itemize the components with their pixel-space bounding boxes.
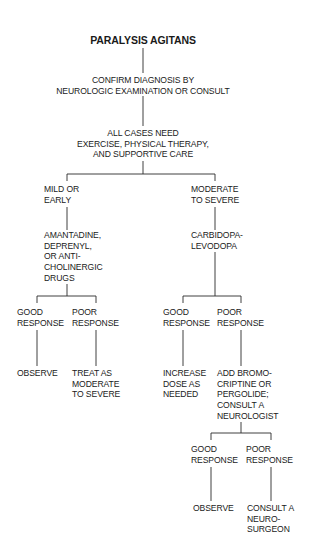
node-moderate-severe: MODERATE TO SEVERE bbox=[191, 184, 239, 205]
node-text: NEURO- bbox=[247, 514, 294, 525]
title-paralysis-agitans: PARALYSIS AGITANS bbox=[90, 35, 196, 46]
node-increase-dose: INCREASE DOSE AS NEEDED bbox=[163, 368, 206, 400]
node-text: GOOD bbox=[191, 444, 238, 455]
node-mild-good-response: GOOD RESPONSE bbox=[17, 307, 64, 328]
node-text: MODERATE bbox=[191, 184, 239, 195]
node-all-cases: ALL CASES NEED EXERCISE, PHYSICAL THERAP… bbox=[77, 128, 209, 160]
node-text: POOR bbox=[72, 307, 119, 318]
node-text: SURGEON bbox=[247, 524, 294, 535]
node-text: POOR bbox=[246, 444, 293, 455]
node-text: PERGOLIDE; bbox=[217, 389, 278, 400]
node-text: RESPONSE bbox=[191, 455, 238, 466]
node-text: RESPONSE bbox=[246, 455, 293, 466]
node-text: TO SEVERE bbox=[191, 195, 239, 206]
node-text: NEEDED bbox=[163, 389, 206, 400]
node-observe-neuro: OBSERVE bbox=[193, 503, 234, 514]
node-text: DRUGS bbox=[44, 273, 103, 284]
node-text: EARLY bbox=[44, 195, 79, 206]
node-text: NEUROLOGIC EXAMINATION OR CONSULT bbox=[56, 86, 230, 97]
node-mod-poor-response: POOR RESPONSE bbox=[217, 307, 264, 328]
node-text: CRIPTINE OR bbox=[217, 379, 278, 390]
node-mod-good-response: GOOD RESPONSE bbox=[163, 307, 210, 328]
node-text: OBSERVE bbox=[17, 368, 58, 379]
node-neuro-good-response: GOOD RESPONSE bbox=[191, 444, 238, 465]
node-text: MODERATE bbox=[72, 379, 120, 390]
node-text: RESPONSE bbox=[17, 318, 64, 329]
node-mild-early: MILD OR EARLY bbox=[44, 184, 79, 205]
node-add-bromocriptine: ADD BROMO- CRIPTINE OR PERGOLIDE; CONSUL… bbox=[217, 368, 278, 422]
node-carbidopa-levodopa: CARBIDOPA- LEVODOPA bbox=[191, 230, 243, 251]
node-text: ALL CASES NEED bbox=[77, 128, 209, 139]
node-text: EXERCISE, PHYSICAL THERAPY, bbox=[77, 139, 209, 150]
node-text: LEVODOPA bbox=[191, 241, 243, 252]
node-text: MILD OR bbox=[44, 184, 79, 195]
flowchart: PARALYSIS AGITANS CONFIRM DIAGNOSIS BY N… bbox=[0, 0, 313, 555]
node-text: DEPRENYL, bbox=[44, 241, 103, 252]
node-text: GOOD bbox=[163, 307, 210, 318]
node-text: AND SUPPORTIVE CARE bbox=[77, 149, 209, 160]
node-text: GOOD bbox=[17, 307, 64, 318]
node-text: RESPONSE bbox=[217, 318, 264, 329]
node-text: RESPONSE bbox=[163, 318, 210, 329]
node-text: CHOLINERGIC bbox=[44, 262, 103, 273]
node-mild-drugs: AMANTADINE, DEPRENYL, OR ANTI- CHOLINERG… bbox=[44, 230, 103, 284]
node-text: POOR bbox=[217, 307, 264, 318]
node-text: TREAT AS bbox=[72, 368, 120, 379]
node-neuro-poor-response: POOR RESPONSE bbox=[246, 444, 293, 465]
node-text: OBSERVE bbox=[193, 503, 234, 514]
node-text: CARBIDOPA- bbox=[191, 230, 243, 241]
node-text: RESPONSE bbox=[72, 318, 119, 329]
node-observe-mild: OBSERVE bbox=[17, 368, 58, 379]
node-text: DOSE AS bbox=[163, 379, 206, 390]
node-confirm-diagnosis: CONFIRM DIAGNOSIS BY NEUROLOGIC EXAMINAT… bbox=[56, 75, 230, 96]
node-consult-neurosurgeon: CONSULT A NEURO- SURGEON bbox=[247, 503, 294, 535]
node-text: CONSULT A bbox=[247, 503, 294, 514]
node-text: ADD BROMO- bbox=[217, 368, 278, 379]
node-treat-as-moderate: TREAT AS MODERATE TO SEVERE bbox=[72, 368, 120, 400]
node-text: TO SEVERE bbox=[72, 389, 120, 400]
node-text: INCREASE bbox=[163, 368, 206, 379]
node-text: CONFIRM DIAGNOSIS BY bbox=[56, 75, 230, 86]
node-text: NEUROLOGIST bbox=[217, 411, 278, 422]
node-text: OR ANTI- bbox=[44, 251, 103, 262]
node-mild-poor-response: POOR RESPONSE bbox=[72, 307, 119, 328]
node-text: AMANTADINE, bbox=[44, 230, 103, 241]
node-text: CONSULT A bbox=[217, 400, 278, 411]
